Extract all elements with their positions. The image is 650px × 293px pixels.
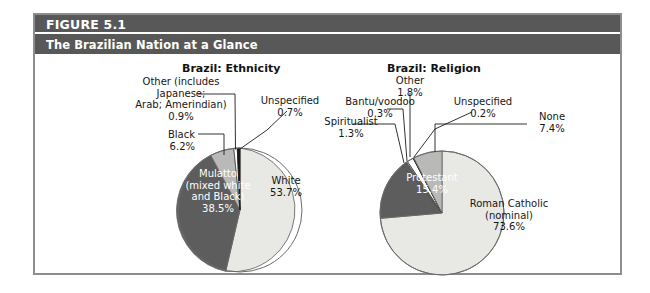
pie-label-roman-catholic-religion: Roman Catholic(nominal)73.6% bbox=[455, 198, 563, 233]
leader-line-none-rel bbox=[435, 124, 527, 152]
pie-label-other-ethnicity: Other (includesJapanese;Arab; Amerindian… bbox=[129, 76, 233, 122]
pie-label-spiritualist-religion: Spiritualist1.3% bbox=[315, 116, 387, 139]
pie-label-mulatto-ethnicity: Mulatto(mixed whiteand Black)38.5% bbox=[175, 168, 261, 214]
pie-label-unspecified-religion: Unspecified0.2% bbox=[443, 96, 523, 119]
pie-charts-canvas bbox=[35, 54, 624, 277]
figure-container: FIGURE 5.1 The Brazilian Nation at a Gla… bbox=[33, 13, 622, 275]
figure-header-band: FIGURE 5.1 The Brazilian Nation at a Gla… bbox=[35, 15, 620, 54]
figure-number: FIGURE 5.1 bbox=[46, 17, 126, 32]
pie-label-other-religion: Other1.8% bbox=[387, 75, 433, 98]
figure-body: Brazil: Ethnicity Brazil: Religion bbox=[35, 54, 620, 273]
pie-label-black-ethnicity: Black6.2% bbox=[147, 129, 195, 152]
pie-label-white-ethnicity: White53.7% bbox=[257, 175, 315, 198]
pie-label-protestant-religion: Protestant15.4% bbox=[397, 172, 467, 195]
pie-label-unspecified-ethnicity: Unspecified0.7% bbox=[247, 95, 333, 118]
pie-label-none-religion: None7.4% bbox=[529, 111, 575, 134]
figure-subtitle: The Brazilian Nation at a Glance bbox=[46, 38, 258, 52]
